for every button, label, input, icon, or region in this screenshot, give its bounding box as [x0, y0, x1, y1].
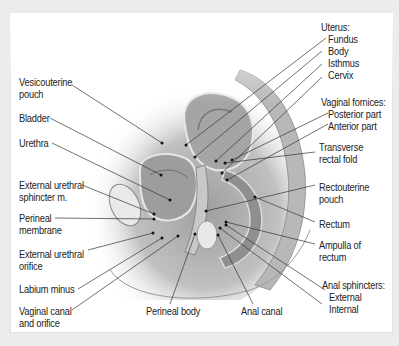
label-body: Body [321, 45, 359, 57]
label-labium-minus: Labium minus [19, 283, 74, 295]
label-external: External [322, 291, 385, 303]
label-line: pouch [19, 88, 72, 100]
label-perineal-membrane: Perineal membrane [19, 212, 62, 236]
label-line: Vaginal canal [19, 305, 72, 317]
label-line: External urethral [19, 248, 84, 260]
label-line: Transverse [319, 141, 363, 153]
label-perineal-body: Perineal body [146, 305, 200, 317]
label-line: Vesicouterine [19, 76, 72, 88]
label-isthmus: Isthmus [321, 57, 359, 69]
label-group-vaginal-fornices: Vaginal fornices: Posterior part Anterio… [321, 96, 386, 132]
label-line: sphincter m. [19, 191, 84, 203]
label-anal-canal: Anal canal [241, 305, 282, 317]
label-vaginal-canal: Vaginal canal and orifice [19, 305, 72, 329]
group-header: Vaginal fornices: [321, 96, 386, 108]
label-line: Rectouterine [319, 181, 369, 193]
label-rectouterine-pouch: Rectouterine pouch [319, 181, 369, 205]
label-external-urethral-sphincter: External urethral sphincter m. [19, 179, 84, 203]
label-posterior-part: Posterior part [321, 108, 386, 120]
group-header: Uterus: [321, 21, 359, 33]
label-group-uterus: Uterus: Fundus Body Isthmus Cervix [321, 21, 359, 81]
label-line: pouch [319, 193, 369, 205]
label-line: and orifice [19, 317, 72, 329]
label-line: Ampulla of [319, 239, 361, 251]
label-line: Perineal [19, 212, 62, 224]
label-internal: Internal [322, 303, 385, 315]
group-header: Anal sphincters: [322, 279, 385, 291]
label-external-urethral-orifice: External urethral orifice [19, 248, 84, 272]
label-line: orifice [19, 260, 84, 272]
label-bladder: Bladder [19, 112, 50, 124]
label-urethra: Urethra [19, 137, 49, 149]
label-vesicouterine-pouch: Vesicouterine pouch [19, 76, 72, 100]
label-anterior-part: Anterior part [321, 120, 386, 132]
label-transverse-rectal-fold: Transverse rectal fold [319, 141, 363, 165]
label-rectum: Rectum [319, 218, 350, 230]
label-line: membrane [19, 224, 62, 236]
label-line: External urethral [19, 179, 84, 191]
label-group-anal-sphincters: Anal sphincters: External Internal [322, 279, 385, 315]
label-ampulla-of-rectum: Ampulla of rectum [319, 239, 361, 263]
label-line: rectum [319, 251, 361, 263]
label-line: rectal fold [319, 153, 363, 165]
label-cervix: Cervix [321, 69, 359, 81]
label-fundus: Fundus [321, 33, 359, 45]
